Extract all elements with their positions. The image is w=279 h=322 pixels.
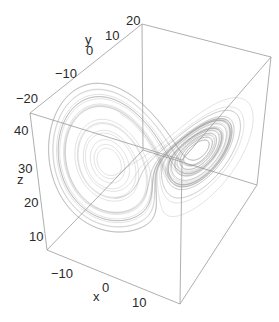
- lorenz-3d-plot[interactable]: −20 −10 0 10 20 y 40 30 20 10 z −10 0 10…: [0, 0, 279, 322]
- y-tick: 20: [126, 13, 140, 28]
- x-tick: 0: [102, 280, 109, 295]
- trajectory-path: [48, 83, 253, 232]
- z-tick: 10: [29, 229, 43, 244]
- y-axis-label: y: [85, 32, 92, 47]
- z-axis-label: z: [17, 172, 24, 187]
- z-tick: 20: [24, 195, 38, 210]
- y-axis: −20 −10 0 10 20 y: [16, 13, 140, 106]
- x-axis: −10 0 10 x: [51, 266, 146, 310]
- y-tick: −10: [55, 66, 77, 81]
- z-tick: 40: [14, 123, 28, 138]
- x-tick: 10: [132, 295, 146, 310]
- x-tick: −10: [51, 266, 73, 281]
- bounding-box-back-edges: [47, 24, 257, 250]
- y-tick: −20: [16, 91, 38, 106]
- attractor-trajectory: [48, 83, 253, 232]
- x-axis-label: x: [93, 289, 100, 304]
- y-tick: 10: [105, 28, 119, 43]
